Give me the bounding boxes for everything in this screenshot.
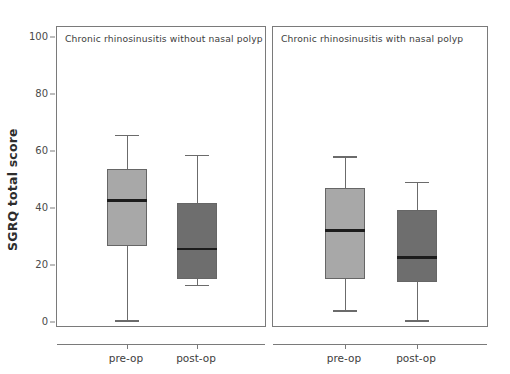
whisker-cap-upper bbox=[185, 155, 209, 157]
panel-without-nasal-polyp: Chronic rhinosinusitis without nasal pol… bbox=[56, 26, 266, 327]
y-tick-label: 20 bbox=[22, 260, 48, 270]
whisker-cap-upper bbox=[405, 182, 429, 184]
x-tick-label: pre-op bbox=[109, 352, 143, 364]
box-post-op bbox=[397, 210, 437, 281]
y-tick-label: 40 bbox=[22, 203, 48, 213]
whisker-cap-lower bbox=[185, 285, 209, 287]
y-tick-label: 80 bbox=[22, 89, 48, 99]
panel-with-nasal-polyp: Chronic rhinosinusitis with nasal polyp bbox=[272, 26, 488, 327]
y-tick-mark bbox=[50, 151, 55, 152]
plot-area bbox=[57, 27, 265, 326]
x-tick-mark bbox=[127, 344, 128, 349]
whisker-cap-lower bbox=[405, 320, 429, 322]
y-tick-mark bbox=[50, 208, 55, 209]
x-axis-line bbox=[57, 344, 265, 345]
x-tick-mark bbox=[417, 344, 418, 349]
y-tick-mark bbox=[50, 322, 55, 323]
x-tick-label: pre-op bbox=[327, 352, 361, 364]
whisker-cap-lower bbox=[333, 310, 357, 312]
whisker-upper bbox=[417, 182, 418, 211]
box-pre-op bbox=[107, 169, 147, 246]
x-tick-label: post-op bbox=[176, 352, 216, 364]
whisker-lower bbox=[345, 279, 346, 310]
box-pre-op bbox=[325, 188, 365, 279]
whisker-lower bbox=[127, 246, 128, 320]
x-axis-line bbox=[273, 344, 487, 345]
y-tick-label: 60 bbox=[22, 146, 48, 156]
y-axis-label: SGRQ total score bbox=[2, 110, 22, 270]
x-tick-mark bbox=[345, 344, 346, 349]
median-line bbox=[107, 199, 147, 202]
y-tick-label: 0 bbox=[22, 317, 48, 327]
median-line bbox=[325, 229, 365, 232]
y-axis: 020406080100 bbox=[22, 0, 56, 374]
whisker-upper bbox=[127, 135, 128, 169]
plot-area bbox=[273, 27, 487, 326]
median-line bbox=[177, 248, 217, 251]
whisker-cap-upper bbox=[333, 156, 357, 158]
whisker-lower bbox=[417, 282, 418, 320]
x-tick-label: post-op bbox=[396, 352, 436, 364]
whisker-upper bbox=[197, 155, 198, 203]
whisker-cap-upper bbox=[115, 135, 139, 137]
box-post-op bbox=[177, 203, 217, 279]
y-tick-mark bbox=[50, 94, 55, 95]
x-tick-mark bbox=[197, 344, 198, 349]
whisker-upper bbox=[345, 156, 346, 187]
y-tick-mark bbox=[50, 265, 55, 266]
whisker-cap-lower bbox=[115, 320, 139, 322]
median-line bbox=[397, 256, 437, 259]
y-tick-label: 100 bbox=[22, 32, 48, 42]
y-tick-mark bbox=[50, 37, 55, 38]
boxplot-figure: SGRQ total score 020406080100 Chronic rh… bbox=[0, 0, 510, 374]
